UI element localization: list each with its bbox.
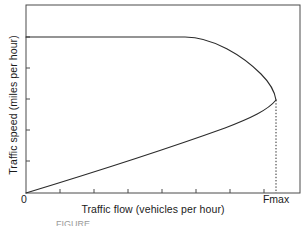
- x-tick-label-fmax: Fmax: [255, 193, 297, 205]
- y-axis-title: Traffic speed (miles per hour): [7, 5, 19, 205]
- plot-frame: [26, 5, 300, 193]
- x-tick-label-origin: 0: [21, 193, 27, 205]
- figure-caption: FIGURE: [56, 219, 186, 226]
- traffic-flow-speed-figure: Traffic flow (vehicles per hour) Traffic…: [0, 0, 306, 227]
